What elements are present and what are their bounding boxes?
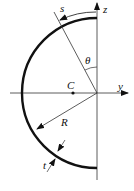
label-theta: θ xyxy=(85,54,91,66)
theta-radial-line xyxy=(54,12,97,93)
theta-arc xyxy=(85,67,97,70)
label-R: R xyxy=(60,116,68,128)
label-y: y xyxy=(117,80,123,92)
thickness-arrow-inner xyxy=(47,159,55,172)
label-s: s xyxy=(60,2,64,14)
semicircle-section-diagram: s z θ C y R t xyxy=(0,0,134,191)
centroid-point xyxy=(71,91,74,94)
label-C: C xyxy=(67,79,75,91)
label-t: t xyxy=(43,159,47,171)
label-z: z xyxy=(102,3,108,15)
thickness-arrow-outer xyxy=(58,140,65,151)
